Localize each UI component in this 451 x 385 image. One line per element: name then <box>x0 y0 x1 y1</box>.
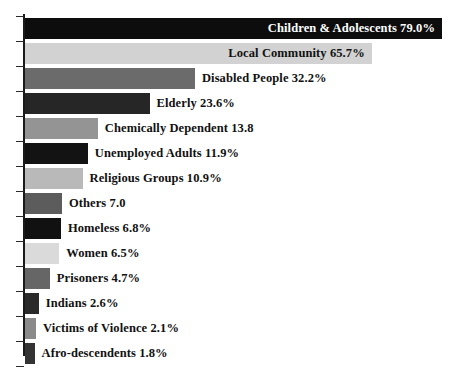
bar-row: Children & Adolescents 79.0% <box>25 16 445 41</box>
bar-value-label: Religious Groups 10.9% <box>90 168 222 189</box>
bar-row: Local Community 65.7% <box>25 41 445 66</box>
axis-tick <box>16 66 24 67</box>
axis-tick <box>16 166 24 167</box>
bar <box>25 68 195 89</box>
bar-row: Afro-descendents 1.8% <box>25 341 445 366</box>
bar-row: Indians 2.6% <box>25 291 445 316</box>
bar <box>25 343 35 364</box>
axis-tick <box>16 91 24 92</box>
bar-chart: Children & Adolescents 79.0%Local Commun… <box>0 0 451 385</box>
bar <box>25 243 59 264</box>
bar <box>25 318 36 339</box>
bar-row: Others 7.0 <box>25 191 445 216</box>
bar-value-label: Women 6.5% <box>66 243 139 264</box>
bar-row: Women 6.5% <box>25 241 445 266</box>
axis-tick <box>16 291 24 292</box>
axis-tick <box>16 141 24 142</box>
bar-row: Disabled People 32.2% <box>25 66 445 91</box>
bar <box>25 218 61 239</box>
bar <box>25 118 98 139</box>
axis-tick <box>16 16 24 17</box>
bar-value-label: Others 7.0 <box>69 193 126 214</box>
bar <box>25 293 39 314</box>
axis-tick <box>16 191 24 192</box>
bar-value-label: Elderly 23.6% <box>157 93 235 114</box>
bar-row: Prisoners 4.7% <box>25 266 445 291</box>
axis-tick <box>16 116 24 117</box>
bar-value-label: Homeless 6.8% <box>68 218 151 239</box>
bar <box>25 93 150 114</box>
bar-value-label: Local Community 65.7% <box>25 43 365 64</box>
bar-row: Elderly 23.6% <box>25 91 445 116</box>
axis-tick <box>16 316 24 317</box>
bar-value-label: Prisoners 4.7% <box>57 268 140 289</box>
bar-value-label: Unemployed Adults 11.9% <box>95 143 239 164</box>
bar-value-label: Chemically Dependent 13.8 <box>105 118 254 139</box>
bar-row: Homeless 6.8% <box>25 216 445 241</box>
bar <box>25 143 88 164</box>
bar-value-label: Afro-descendents 1.8% <box>42 343 168 364</box>
axis-tick <box>16 41 24 42</box>
bar <box>25 268 50 289</box>
axis-tick <box>16 216 24 217</box>
bar-row: Unemployed Adults 11.9% <box>25 141 445 166</box>
bar-value-label: Disabled People 32.2% <box>202 68 327 89</box>
bar-value-label: Indians 2.6% <box>46 293 119 314</box>
plot-area: Children & Adolescents 79.0%Local Commun… <box>25 16 445 356</box>
axis-tick <box>16 266 24 267</box>
bar-row: Victims of Violence 2.1% <box>25 316 445 341</box>
bar-value-label: Victims of Violence 2.1% <box>43 318 179 339</box>
axis-tick <box>16 241 24 242</box>
axis-tick <box>16 341 24 342</box>
bar-row: Chemically Dependent 13.8 <box>25 116 445 141</box>
bar-value-label: Children & Adolescents 79.0% <box>25 18 435 39</box>
axis-tick <box>16 366 24 367</box>
bar-row: Religious Groups 10.9% <box>25 166 445 191</box>
bar <box>25 168 83 189</box>
bar <box>25 193 62 214</box>
